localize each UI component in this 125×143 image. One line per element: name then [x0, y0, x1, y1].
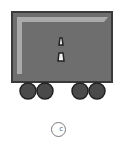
- wagon-body: [12, 12, 112, 82]
- wheel-icon: [20, 83, 36, 99]
- option-radio-c[interactable]: c: [51, 122, 66, 137]
- wheel-icon: [37, 83, 53, 99]
- marker-icon: [58, 53, 64, 61]
- wagon-illustration: [0, 0, 125, 110]
- wheel-icon: [89, 83, 105, 99]
- option-label: c: [59, 125, 63, 133]
- wheel-icon: [72, 83, 88, 99]
- marker-icon: [59, 38, 63, 45]
